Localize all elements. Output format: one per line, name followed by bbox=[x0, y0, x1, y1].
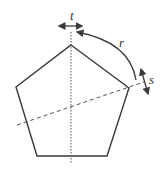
s-arrow-icon bbox=[141, 69, 148, 94]
label-r: r bbox=[119, 35, 125, 50]
pentagon bbox=[16, 45, 129, 156]
label-t: t bbox=[70, 8, 74, 23]
pentagon-diagram: t r s bbox=[0, 0, 162, 172]
diagonal-axis-dashed bbox=[17, 82, 144, 125]
label-s: s bbox=[149, 72, 154, 87]
